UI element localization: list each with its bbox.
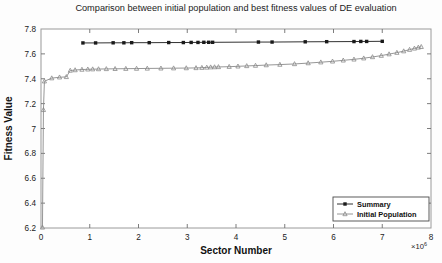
data-point-marker (365, 40, 368, 43)
x-tick-label-1: 1 (87, 233, 92, 242)
y-tick-label-6.6: 6.6 (25, 174, 37, 183)
data-point-marker (202, 41, 205, 44)
x-tick-label-4: 4 (234, 233, 239, 242)
legend-label-summary: Summary (357, 200, 392, 209)
legend-label-initial-population: Initial Population (357, 210, 417, 219)
x-tick-label-0: 0 (39, 233, 44, 242)
x-tick-label-5: 5 (282, 233, 287, 242)
y-tick-label-6.2: 6.2 (25, 224, 37, 233)
data-point-marker (111, 41, 114, 44)
data-point-marker (167, 41, 170, 44)
data-point-marker (359, 40, 362, 43)
x-tick-label-8: 8 (429, 233, 434, 242)
data-point-marker (304, 40, 307, 43)
data-point-marker (130, 41, 133, 44)
legend-marker-square (343, 202, 346, 205)
data-point-marker (381, 40, 384, 43)
y-tick-label-6.4: 6.4 (25, 199, 37, 208)
y-tick-label-7.2: 7.2 (25, 100, 37, 109)
chart-figure: Comparison between initial population an… (0, 0, 442, 263)
x-axis-exponent: ×106 (411, 241, 427, 251)
data-point-marker (270, 40, 273, 43)
data-point-marker (352, 40, 355, 43)
chart-title: Comparison between initial population an… (75, 3, 396, 13)
y-axis-label: Fitness Value (3, 96, 14, 160)
y-tick-label-7.8: 7.8 (25, 25, 37, 34)
data-point-marker (122, 41, 125, 44)
x-axis-exponent-power: 6 (424, 241, 427, 247)
data-point-marker (325, 40, 328, 43)
x-tick-label-3: 3 (185, 233, 190, 242)
x-tick-label-7: 7 (380, 233, 385, 242)
data-point-marker (189, 41, 192, 44)
x-axis-label: Sector Number (200, 245, 272, 256)
data-point-marker (257, 40, 260, 43)
y-tick-label-7: 7 (31, 125, 36, 134)
data-point-marker (94, 41, 97, 44)
data-point-marker (211, 41, 214, 44)
data-point-marker (148, 41, 151, 44)
y-tick-label-6.8: 6.8 (25, 149, 37, 158)
data-point-marker (182, 41, 185, 44)
data-point-marker (207, 41, 210, 44)
y-tick-label-7.6: 7.6 (25, 50, 37, 59)
data-point-marker (196, 41, 199, 44)
x-tick-label-2: 2 (136, 233, 141, 242)
x-tick-label-6: 6 (331, 233, 336, 242)
data-point-marker (81, 41, 84, 44)
y-tick-label-7.4: 7.4 (25, 75, 37, 84)
fitness-comparison-chart: Comparison between initial population an… (0, 0, 442, 263)
